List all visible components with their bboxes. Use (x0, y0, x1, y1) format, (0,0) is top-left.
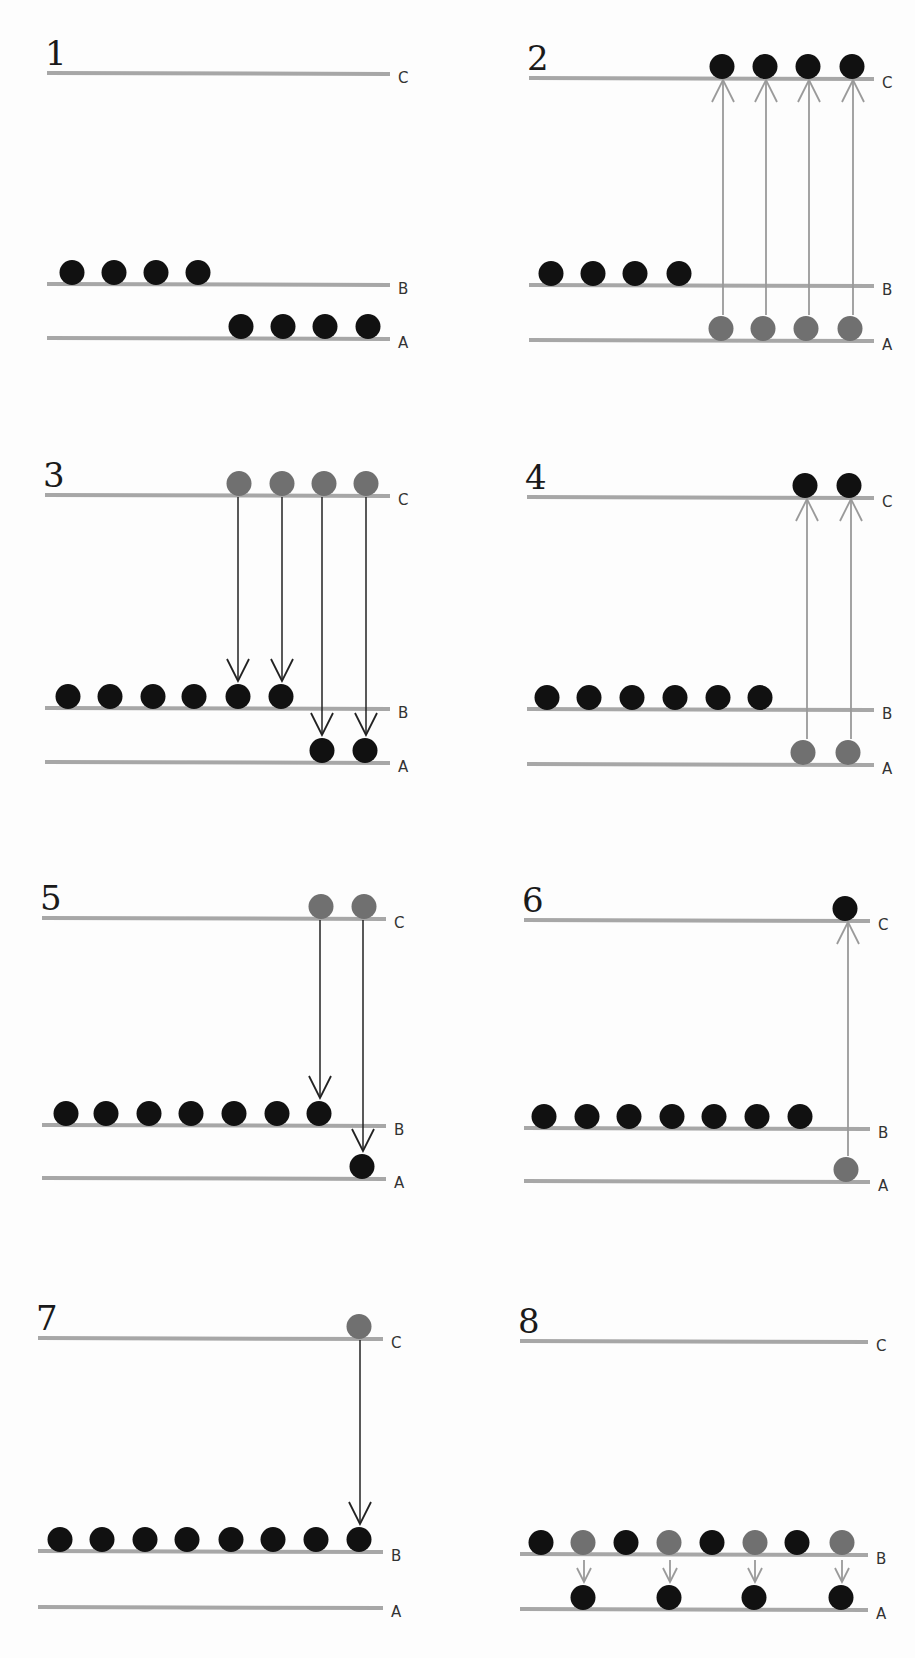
particle-icon (829, 1585, 854, 1610)
particle-icon (229, 314, 254, 339)
level-line-b (520, 1554, 868, 1555)
particle-icon (575, 1104, 600, 1129)
level-label-b: B (882, 281, 892, 299)
level-line-b (42, 1125, 386, 1126)
level-line-c (38, 1338, 383, 1339)
particle-icon (219, 1527, 244, 1552)
level-line-a (47, 338, 390, 339)
particle-icon (313, 314, 338, 339)
particle-icon (60, 260, 85, 285)
level-label-a: A (398, 758, 409, 776)
particle-icon (745, 1104, 770, 1129)
particle-icon (535, 685, 560, 710)
level-label-a: A (394, 1174, 405, 1192)
panel-5: 5CBA (40, 878, 405, 1192)
particle-icon (614, 1530, 639, 1555)
panel-6: 6CBA (522, 880, 889, 1195)
particle-icon (788, 1104, 813, 1129)
particle-icon (571, 1585, 596, 1610)
particle-icon (353, 738, 378, 763)
level-line-b (38, 1551, 383, 1552)
level-label-a: A (391, 1603, 402, 1621)
level-label-b: B (876, 1550, 886, 1568)
particle-icon (577, 685, 602, 710)
particle-icon (742, 1585, 767, 1610)
pump-arrow-icon (712, 80, 734, 315)
particle-icon (667, 261, 692, 286)
level-label-b: B (882, 705, 892, 723)
excited-particle-icon (354, 471, 379, 496)
particle-icon (623, 261, 648, 286)
level-label-c: C (876, 1337, 886, 1355)
panel-8: 8CBA (518, 1301, 887, 1623)
particle-icon (186, 260, 211, 285)
excited-particle-icon (838, 316, 863, 341)
excited-particle-icon (791, 740, 816, 765)
particle-icon (660, 1104, 685, 1129)
panel-number: 6 (522, 880, 544, 920)
panel-number: 4 (525, 457, 547, 497)
level-label-b: B (878, 1124, 888, 1142)
particle-icon (347, 1527, 372, 1552)
level-line-c (527, 497, 874, 498)
level-label-a: A (882, 760, 893, 778)
level-line-c (42, 918, 386, 919)
level-line-a (45, 762, 390, 763)
particle-icon (840, 54, 865, 79)
particle-icon (539, 261, 564, 286)
panel-2: 2CBA (527, 38, 893, 354)
particle-icon (269, 684, 294, 709)
pump-arrow-icon (796, 499, 818, 739)
particle-icon (102, 260, 127, 285)
excited-particle-icon (657, 1530, 682, 1555)
particle-icon (141, 684, 166, 709)
level-label-b: B (394, 1121, 404, 1139)
excited-particle-icon (709, 316, 734, 341)
particle-icon (356, 314, 381, 339)
particle-icon (350, 1154, 375, 1179)
particle-icon (837, 473, 862, 498)
excited-particle-icon (352, 894, 377, 919)
particle-icon (261, 1527, 286, 1552)
particle-icon (532, 1104, 557, 1129)
particle-icon (748, 685, 773, 710)
level-label-c: C (398, 491, 408, 509)
particle-icon (54, 1101, 79, 1126)
level-label-b: B (391, 1547, 401, 1565)
particle-icon (833, 896, 858, 921)
pump-arrow-icon (748, 1560, 762, 1582)
particle-icon (98, 684, 123, 709)
particle-icon (617, 1104, 642, 1129)
level-label-c: C (882, 493, 892, 511)
level-label-b: B (398, 280, 408, 298)
panel-number: 2 (527, 38, 549, 78)
particle-icon (137, 1101, 162, 1126)
level-line-a (42, 1178, 386, 1179)
excited-particle-icon (794, 316, 819, 341)
decay-arrow-icon (227, 497, 249, 681)
excited-particle-icon (743, 1530, 768, 1555)
particle-icon (182, 684, 207, 709)
level-label-c: C (882, 74, 892, 92)
particle-icon (529, 1530, 554, 1555)
pump-arrow-icon (755, 80, 777, 315)
particle-icon (785, 1530, 810, 1555)
level-line-c (45, 495, 390, 496)
level-label-c: C (391, 1334, 401, 1352)
particle-icon (179, 1101, 204, 1126)
particle-icon (796, 54, 821, 79)
particle-icon (271, 314, 296, 339)
excited-particle-icon (270, 471, 295, 496)
particle-icon (222, 1101, 247, 1126)
level-label-a: A (398, 334, 409, 352)
panel-3: 3CBA (43, 455, 409, 776)
excited-particle-icon (227, 471, 252, 496)
level-line-c (524, 920, 870, 921)
particle-icon (226, 684, 251, 709)
particle-icon (48, 1527, 73, 1552)
particle-icon (657, 1585, 682, 1610)
panel-1: 1CBA (45, 33, 409, 352)
particle-icon (90, 1527, 115, 1552)
particle-icon (307, 1101, 332, 1126)
particle-icon (175, 1527, 200, 1552)
